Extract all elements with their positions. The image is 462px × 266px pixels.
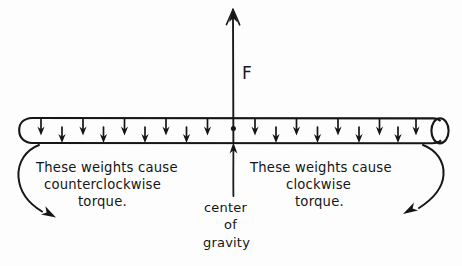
force-arrow-f (227, 8, 240, 143)
right-annotation-line2: clockwise (286, 177, 351, 192)
left-curve-arrowhead (41, 206, 56, 217)
physics-diagram: F (0, 0, 462, 266)
bar-right-ellipse-cap (431, 118, 448, 143)
weight-arrow-long (162, 120, 169, 136)
weight-arrow-long (79, 120, 86, 136)
left-annotation-line2: counterclockwise (44, 177, 161, 192)
weight-arrow-short (314, 127, 321, 143)
weight-arrow-short (141, 127, 148, 143)
weight-arrow-long (412, 120, 419, 136)
weight-arrow-short (355, 127, 362, 143)
weight-arrow-short (394, 127, 401, 143)
center-of-gravity-dot (231, 126, 236, 131)
force-label: F (242, 63, 252, 83)
left-curve-path (18, 145, 42, 212)
weight-arrow-short (183, 127, 190, 143)
right-annotation-line1: These weights cause (249, 160, 392, 175)
weight-arrow-long (293, 120, 300, 136)
weight-arrows-group (37, 120, 419, 144)
cg-pointer-arrow (230, 143, 238, 196)
left-annotation-line1: These weights cause (35, 160, 178, 175)
weight-arrow-long (204, 120, 211, 136)
right-torque-curve (403, 145, 444, 214)
weight-arrow-long (251, 120, 258, 136)
bar-left-cap (19, 118, 32, 143)
right-curve-arrowhead (403, 202, 418, 214)
cg-label-line2: of (224, 217, 237, 232)
weight-arrow-long (37, 120, 44, 136)
weight-arrow-short (58, 127, 65, 143)
cg-label-line3: gravity (203, 235, 250, 250)
weight-arrow-long (376, 120, 383, 136)
left-annotation-line3: torque. (78, 194, 127, 209)
figure-canvas: F (0, 0, 462, 266)
weight-arrow-long (334, 120, 341, 136)
weight-arrow-short (100, 127, 107, 143)
right-annotation-line3: torque. (295, 194, 344, 209)
right-curve-path (419, 145, 444, 208)
weight-arrow-short (272, 127, 279, 143)
cg-label-line1: center (204, 200, 247, 215)
weight-arrow-long (121, 120, 128, 136)
